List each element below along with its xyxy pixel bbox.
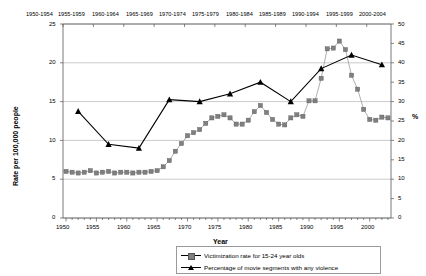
chart-container: Rate per 100,000 people % Year 1950-1954…	[0, 0, 426, 276]
data-point-square	[277, 122, 281, 126]
data-point-square	[240, 122, 244, 126]
data-point-square	[325, 47, 329, 51]
data-point-square	[380, 115, 384, 119]
data-point-square	[137, 170, 141, 174]
data-point-square	[246, 118, 250, 122]
data-point-square	[125, 170, 129, 174]
legend-label: Victimization rate for 15-24 year olds	[204, 252, 304, 259]
legend-item-movie-violence[interactable]: Percentage of movie segments with any vi…	[181, 261, 376, 273]
data-point-square	[222, 113, 226, 117]
data-point-square	[355, 87, 359, 91]
data-point-square	[191, 131, 195, 135]
data-point-square	[210, 116, 214, 120]
data-point-square	[283, 123, 287, 127]
data-point-square	[179, 141, 183, 145]
data-point-square	[216, 114, 220, 118]
data-point-square	[343, 48, 347, 52]
data-point-square	[198, 127, 202, 131]
legend-item-victimization[interactable]: Victimization rate for 15-24 year olds	[181, 249, 376, 261]
data-point-triangle	[257, 79, 263, 85]
data-point-square	[94, 171, 98, 175]
data-point-square	[234, 122, 238, 126]
data-point-square	[289, 116, 293, 120]
plot-area	[0, 0, 426, 276]
data-point-square	[337, 39, 341, 43]
data-point-square	[113, 171, 117, 175]
data-point-square	[264, 110, 268, 114]
data-point-square	[295, 113, 299, 117]
data-point-square	[131, 171, 135, 175]
data-point-square	[252, 110, 256, 114]
data-point-square	[313, 99, 317, 103]
data-point-square	[368, 117, 372, 121]
triangle-marker-icon	[181, 263, 201, 271]
data-point-square	[185, 134, 189, 138]
data-point-square	[301, 114, 305, 118]
data-point-square	[362, 107, 366, 111]
data-point-square	[258, 103, 262, 107]
data-point-triangle	[75, 108, 81, 114]
data-point-square	[119, 170, 123, 174]
data-point-square	[204, 121, 208, 125]
data-point-square	[319, 76, 323, 80]
data-point-square	[155, 169, 159, 173]
data-point-square	[82, 170, 86, 174]
data-point-square	[331, 46, 335, 50]
data-point-square	[100, 170, 104, 174]
data-point-square	[270, 117, 274, 121]
data-point-square	[143, 170, 147, 174]
data-point-square	[386, 116, 390, 120]
data-point-square	[307, 99, 311, 103]
data-point-square	[228, 116, 232, 120]
data-point-square	[106, 169, 110, 173]
data-point-square	[70, 170, 74, 174]
square-marker-icon	[181, 251, 201, 259]
legend: Victimization rate for 15-24 year olds P…	[176, 246, 381, 274]
data-point-square	[374, 118, 378, 122]
legend-label: Percentage of movie segments with any vi…	[204, 264, 338, 271]
data-point-square	[64, 169, 68, 173]
data-point-square	[76, 171, 80, 175]
data-point-square	[149, 169, 153, 173]
data-point-triangle	[348, 52, 354, 58]
data-point-square	[161, 165, 165, 169]
data-point-square	[88, 169, 92, 173]
data-point-square	[349, 73, 353, 77]
data-point-square	[173, 149, 177, 153]
data-point-square	[167, 158, 171, 162]
